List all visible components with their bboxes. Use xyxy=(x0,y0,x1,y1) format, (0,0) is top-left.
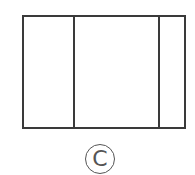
right-divider xyxy=(158,17,160,127)
option-label: C xyxy=(92,148,107,170)
option-label-circle: C xyxy=(85,144,115,174)
left-divider xyxy=(73,17,75,127)
outer-rectangle xyxy=(22,15,186,129)
